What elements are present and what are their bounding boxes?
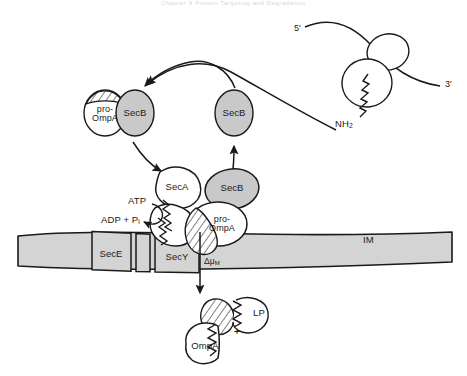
nh2-subscript: 2 <box>349 122 353 129</box>
mrna-3prime-label: 3' <box>445 80 452 89</box>
proompa-label-bound: pro- OmpA <box>209 215 235 234</box>
plus-sign-label: + <box>234 326 241 338</box>
adp-pi-label: ADP + Pi <box>101 215 140 225</box>
atp-label: ATP <box>128 196 146 206</box>
ribosome-translation-complex <box>305 22 440 117</box>
secb-label-bound: SecB <box>220 183 243 193</box>
arrow-secb-recycle <box>145 61 235 88</box>
nh2-text: NH <box>335 118 349 129</box>
arrow-complex-to-seca <box>133 142 161 171</box>
figure-canvas: Chapter 9 Protein Targeting and Degradat… <box>0 0 467 376</box>
nascent-chain-nh2-label: NH2 <box>335 119 353 129</box>
secE-label: SecE <box>99 249 122 259</box>
proompa-line2-bound: OmpA <box>209 223 235 233</box>
pmf-subscript: M <box>215 259 220 266</box>
adp-text: ADP + P <box>101 214 138 225</box>
mrna-5prime-label: 5' <box>294 24 301 33</box>
secb-label-free: SecB <box>123 108 146 118</box>
proompa-line2-free: OmpA <box>92 113 118 123</box>
ompa-label: OmpA <box>191 341 218 351</box>
pmf-label: ΔμM <box>204 257 220 267</box>
pmf-symbol-text: Δμ <box>204 256 215 266</box>
secb-label-recycled: SecB <box>222 108 245 118</box>
secG-channel-subunit <box>136 234 150 272</box>
seca-label: SecA <box>165 182 188 192</box>
secY-label: SecY <box>165 252 188 262</box>
proompa-label-free: pro- OmpA <box>92 105 118 124</box>
leader-peptide-label: LP <box>253 308 265 318</box>
pi-subscript: i <box>138 218 140 225</box>
inner-membrane-label: IM <box>363 235 374 245</box>
